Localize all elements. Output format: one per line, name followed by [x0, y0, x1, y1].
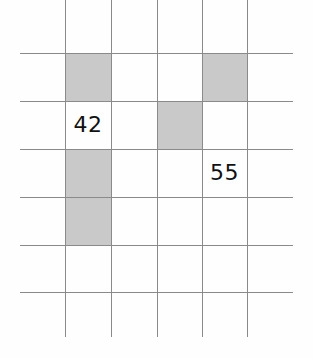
- grid-cell-shaded[interactable]: [65, 149, 111, 197]
- grid-line-horizontal: [20, 149, 293, 150]
- grid-line-vertical: [65, 0, 66, 337]
- grid-cell-shaded[interactable]: [65, 197, 111, 245]
- grid-cell-shaded[interactable]: [65, 53, 111, 101]
- grid-line-horizontal: [20, 101, 293, 102]
- grid-line-vertical: [157, 0, 158, 337]
- grid-line-horizontal: [20, 245, 293, 246]
- grid-line-horizontal: [20, 53, 293, 54]
- grid-line-horizontal: [20, 292, 293, 293]
- grid-line-vertical: [111, 0, 112, 337]
- grid-line-horizontal: [20, 197, 293, 198]
- grid-cell-value[interactable]: 55: [202, 149, 247, 197]
- grid-canvas: 4255: [0, 0, 313, 358]
- grid-cell-shaded[interactable]: [157, 101, 202, 149]
- grid-line-vertical: [247, 0, 248, 337]
- grid-cell-value[interactable]: 42: [65, 101, 111, 149]
- grid-cell-shaded[interactable]: [202, 53, 247, 101]
